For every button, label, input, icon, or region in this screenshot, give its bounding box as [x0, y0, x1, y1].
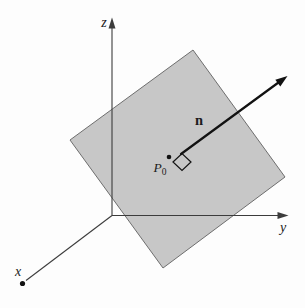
plane-surface: [70, 50, 285, 268]
z-axis-label: z: [100, 15, 107, 30]
p0-point-dot: [167, 155, 172, 160]
plane-normal-vector-diagram: z y x n P0: [0, 0, 305, 308]
y-axis-label: y: [278, 220, 287, 235]
figure-canvas: z y x n P0: [0, 0, 305, 308]
normal-vector-label: n: [195, 112, 203, 128]
p0-label-subscript: 0: [162, 167, 167, 177]
z-axis-arrowhead: [109, 18, 116, 29]
p0-label-base: P: [153, 160, 162, 175]
x-axis-line: [26, 216, 112, 281]
y-axis-arrowhead: [278, 212, 289, 219]
x-axis-end-dot: [20, 281, 25, 286]
x-axis-label: x: [14, 264, 22, 279]
normal-vector-arrowhead: [275, 76, 287, 87]
